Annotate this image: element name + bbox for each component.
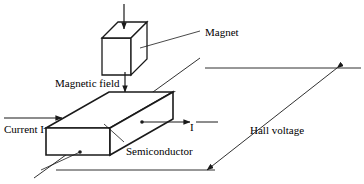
- magnet-cube-front-face: [102, 38, 131, 75]
- current-short-label: I: [190, 122, 194, 133]
- slab-front-face: [46, 128, 110, 155]
- current-label: Current I: [4, 124, 44, 135]
- hall-voltage-label: Hall voltage: [250, 125, 304, 136]
- magnetic-field-label: Magnetic field: [55, 78, 119, 89]
- hall-voltage-arrow-icon: [207, 68, 337, 170]
- hall-effect-diagram: Magnet Magnetic field Current I I Semico…: [0, 0, 364, 184]
- semiconductor-label: Semiconductor: [126, 146, 193, 157]
- magnet-cube: [102, 22, 147, 75]
- magnet-leader-line: [140, 31, 200, 48]
- magnet-label: Magnet: [205, 27, 239, 38]
